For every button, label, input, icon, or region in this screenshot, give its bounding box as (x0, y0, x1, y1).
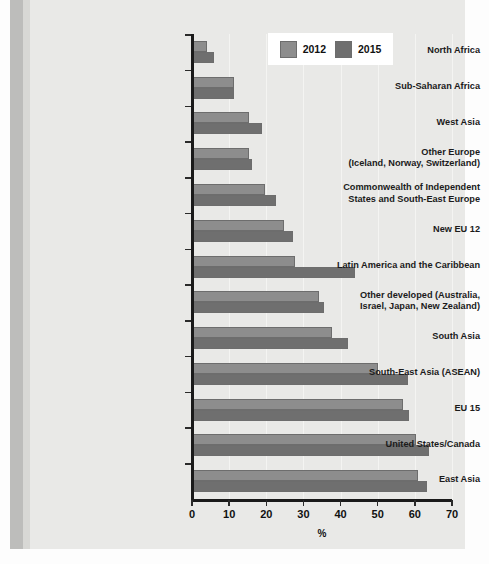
category-label-7: Other developed (Australia,Israel, Japan… (303, 290, 489, 313)
chart-legend: 2012 2015 (268, 33, 393, 65)
bar-2015-3 (192, 159, 252, 170)
x-axis-tick (414, 500, 416, 506)
x-axis-tick (451, 500, 453, 506)
bar-2012-1 (192, 77, 234, 88)
legend-item-2015: 2015 (335, 41, 381, 58)
category-label-9: South-East Asia (ASEAN) (303, 367, 489, 379)
bar-2015-0 (192, 52, 214, 63)
x-axis-tick-label: 30 (288, 508, 318, 520)
category-label-line: Other developed (Australia, (303, 290, 480, 302)
category-label-2: West Asia (303, 117, 489, 129)
category-label-6: Latin America and the Caribbean (303, 260, 489, 272)
category-label-line: Latin America and the Caribbean (303, 260, 480, 272)
category-label-line: Israel, Japan, New Zealand) (303, 301, 480, 313)
y-axis-line (191, 34, 194, 500)
category-label-11: United States/Canada (303, 439, 489, 451)
category-label-1: Sub-Saharan Africa (303, 81, 489, 93)
x-axis-tick-label: 10 (214, 508, 244, 520)
category-label-line: Commonwealth of Independent (303, 182, 480, 194)
category-label-10: EU 15 (303, 403, 489, 415)
x-axis-tick (191, 500, 193, 506)
bar-2012-5 (192, 220, 284, 231)
x-axis-tick-label: 40 (326, 508, 356, 520)
category-label-line: (Iceland, Norway, Switzerland) (303, 158, 480, 170)
x-axis-tick-label: 60 (400, 508, 430, 520)
category-label-line: South-East Asia (ASEAN) (303, 367, 480, 379)
category-label-line: Other Europe (303, 147, 480, 159)
x-axis-tick (303, 500, 305, 506)
category-label-line: New EU 12 (303, 224, 480, 236)
x-axis-tick (340, 500, 342, 506)
x-axis-tick-label: 0 (177, 508, 207, 520)
x-axis-tick (228, 500, 230, 506)
legend-item-2012: 2012 (280, 41, 326, 58)
bar-2012-2 (192, 112, 249, 123)
category-label-line: United States/Canada (303, 439, 480, 451)
x-axis-line (191, 499, 452, 502)
category-label-4: Commonwealth of IndependentStates and So… (303, 182, 489, 205)
category-label-8: South Asia (303, 331, 489, 343)
bar-2015-2 (192, 123, 262, 134)
chart-page: North AfricaSub-Saharan AfricaWest AsiaO… (0, 0, 489, 564)
bar-2015-1 (192, 88, 234, 99)
x-axis-tick-label: 20 (251, 508, 281, 520)
x-axis-tick (266, 500, 268, 506)
bar-2012-3 (192, 148, 249, 159)
legend-label-2015: 2015 (358, 43, 381, 55)
category-label-line: Sub-Saharan Africa (303, 81, 480, 93)
bar-2012-0 (192, 41, 207, 52)
category-label-5: New EU 12 (303, 224, 489, 236)
bar-2012-7 (192, 291, 319, 302)
x-axis-title: % (292, 528, 352, 539)
category-label-12: East Asia (303, 474, 489, 486)
x-axis-tick (377, 500, 379, 506)
category-label-line: EU 15 (303, 403, 480, 415)
bar-2015-4 (192, 195, 276, 206)
x-axis-tick-label: 70 (437, 508, 467, 520)
bar-2012-6 (192, 256, 295, 267)
category-label-line: States and South-East Europe (303, 194, 480, 206)
category-label-line: East Asia (303, 474, 480, 486)
legend-swatch-2015-icon (335, 41, 352, 58)
legend-swatch-2012-icon (280, 41, 297, 58)
bar-2015-5 (192, 231, 293, 242)
category-label-line: West Asia (303, 117, 480, 129)
x-axis-tick-label: 50 (363, 508, 393, 520)
bar-chart: North AfricaSub-Saharan AfricaWest AsiaO… (0, 0, 489, 564)
category-label-3: Other Europe(Iceland, Norway, Switzerlan… (303, 147, 489, 170)
bar-2012-4 (192, 184, 265, 195)
category-label-line: South Asia (303, 331, 480, 343)
legend-label-2012: 2012 (303, 43, 326, 55)
